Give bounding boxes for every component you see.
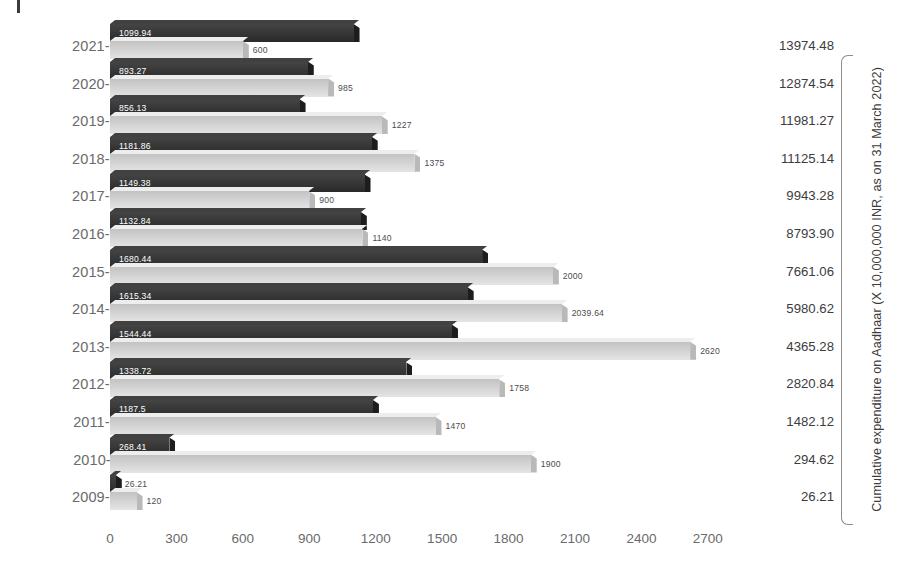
x-axis-tick-label: 0	[106, 531, 114, 546]
bar-face	[110, 267, 553, 285]
cumulative-value: 8793.90	[742, 226, 834, 241]
cumulative-axis-title: Cumulative expenditure on Aadhaar (X 10,…	[857, 0, 897, 579]
cumulative-value: 11125.14	[742, 151, 834, 166]
x-axis-tick-label: 2100	[560, 531, 590, 546]
x-axis-tick-label: 1800	[494, 531, 524, 546]
bar-end-cap	[354, 24, 360, 42]
bar-value-label: 600	[253, 45, 268, 55]
bar-face	[110, 492, 137, 510]
bar-value-label: 1900	[541, 459, 561, 469]
bar-budget	[110, 492, 137, 510]
bar-end-cap	[362, 229, 368, 247]
bar-budget	[110, 116, 382, 134]
bar-budget	[110, 191, 309, 209]
bar-end-cap	[137, 492, 143, 510]
bar-budget	[110, 267, 553, 285]
bar-end-cap	[531, 455, 537, 473]
cumulative-values-column: 13974.4812874.5411981.2711125.149943.288…	[742, 0, 834, 520]
bar-end-cap	[309, 191, 315, 209]
cumulative-bracket	[841, 55, 853, 525]
bar-end-cap	[436, 417, 442, 435]
bar-face	[110, 41, 243, 59]
cumulative-value: 12874.54	[742, 76, 834, 91]
cumulative-value: 4365.28	[742, 339, 834, 354]
bar-budget	[110, 41, 243, 59]
bar-end-cap	[243, 41, 249, 59]
cumulative-value: 26.21	[742, 489, 834, 504]
bar-budget	[110, 79, 328, 97]
bar-value-label: 900	[319, 195, 334, 205]
x-axis-tick-label: 2700	[693, 531, 723, 546]
bar-budget	[110, 229, 362, 247]
x-axis-tick-labels: 0300600900120015001800210024002700	[110, 531, 730, 555]
x-axis-tick-label: 300	[165, 531, 188, 546]
bar-budget	[110, 379, 499, 397]
bar-face	[110, 116, 382, 134]
bar-end-cap	[562, 304, 568, 322]
bar-value-label: 120	[147, 496, 162, 506]
bar-end-cap	[414, 154, 420, 172]
bar-value-label: 2620	[700, 346, 720, 356]
bar-budget	[110, 417, 436, 435]
bar-value-label: 2000	[563, 271, 583, 281]
bar-value-label: 1227	[392, 120, 412, 130]
bar-end-cap	[328, 79, 334, 97]
x-axis-tick-label: 1200	[361, 531, 391, 546]
bar-value-label: 1470	[446, 421, 466, 431]
bar-end-cap	[499, 379, 505, 397]
bar-value-label: 1140	[372, 233, 391, 243]
bar-face	[110, 229, 362, 247]
bar-end-cap	[553, 267, 559, 285]
bar-value-label: 1758	[509, 383, 529, 393]
cumulative-value: 13974.48	[742, 38, 834, 53]
x-axis-tick-label: 600	[232, 531, 255, 546]
bar-value-label: 2039.64	[572, 308, 604, 318]
bar-chart-plot: 2021-222020-212019-202018-192017-182016-…	[0, 0, 910, 579]
cumulative-axis-title-text: Cumulative expenditure on Aadhaar (X 10,…	[870, 67, 884, 512]
cumulative-value: 11981.27	[742, 113, 834, 128]
x-axis-tick-label: 2400	[626, 531, 656, 546]
bar-budget	[110, 455, 531, 473]
cumulative-value: 2820.84	[742, 376, 834, 391]
bar-value-label: 1375	[424, 158, 444, 168]
bar-face	[110, 417, 436, 435]
bar-face	[110, 304, 562, 322]
bar-value-label: 985	[338, 83, 353, 93]
bar-face	[110, 79, 328, 97]
bar-end-cap	[690, 342, 696, 360]
bar-face	[110, 379, 499, 397]
bar-face	[110, 455, 531, 473]
bar-face	[110, 191, 309, 209]
cumulative-value: 7661.06	[742, 264, 834, 279]
bar-budget	[110, 304, 562, 322]
bar-end-cap	[382, 116, 388, 134]
bars-area: 1099.94600893.27985856.1312271181.861375…	[110, 0, 730, 520]
x-axis-tick-label: 1500	[427, 531, 457, 546]
cumulative-value: 5980.62	[742, 301, 834, 316]
cumulative-value: 1482.12	[742, 414, 834, 429]
x-axis-tick-label: 900	[298, 531, 321, 546]
bar-end-cap	[365, 174, 371, 192]
cumulative-value: 9943.28	[742, 188, 834, 203]
cumulative-value: 294.62	[742, 452, 834, 467]
chart-root: 2021-222020-212019-202018-192017-182016-…	[0, 0, 910, 579]
